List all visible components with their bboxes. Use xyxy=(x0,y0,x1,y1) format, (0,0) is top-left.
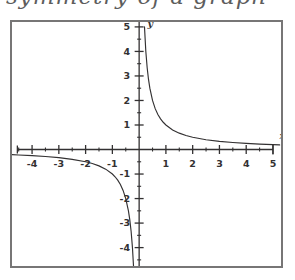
y-tick-label: 5 xyxy=(124,22,131,32)
y-tick-label: 1 xyxy=(124,119,131,130)
tick-labels-group: -4-3-2-11234554321-1-2-3-4xy xyxy=(27,22,281,253)
x-tick-label: 3 xyxy=(216,158,223,169)
x-tick-label: -4 xyxy=(27,158,38,169)
handwritten-title-text: symmetry of a graph xyxy=(6,0,267,9)
y-tick-label: -3 xyxy=(120,217,131,228)
x-tick-label: 1 xyxy=(163,158,170,169)
x-tick-label: -3 xyxy=(54,158,65,169)
y-tick-label: -1 xyxy=(120,168,131,179)
handwritten-title-strip: symmetry of a graph xyxy=(0,0,295,18)
y-tick-label: 4 xyxy=(124,46,131,57)
y-tick-label: -4 xyxy=(120,242,131,253)
curve-group xyxy=(12,27,280,266)
y-tick-label: -2 xyxy=(120,193,131,204)
x-tick-label: -2 xyxy=(80,158,91,169)
ticks-group xyxy=(19,27,273,260)
x-tick-label: -1 xyxy=(107,158,118,169)
y-tick-label: 3 xyxy=(124,70,131,81)
x-tick-label: 2 xyxy=(189,158,196,169)
axes-group xyxy=(17,22,273,266)
y-axis-name: y xyxy=(147,22,155,29)
graph-canvas: -4-3-2-11234554321-1-2-3-4xy xyxy=(12,22,281,266)
x-tick-label: 5 xyxy=(270,158,277,169)
x-tick-label: 4 xyxy=(243,158,250,169)
graph-plot-frame: -4-3-2-11234554321-1-2-3-4xy xyxy=(10,20,283,268)
y-tick-label: 2 xyxy=(124,95,131,106)
x-axis-name: x xyxy=(279,130,281,141)
curve-branch-quadrant-III xyxy=(12,155,134,266)
curve-branch-quadrant-I xyxy=(144,27,279,145)
